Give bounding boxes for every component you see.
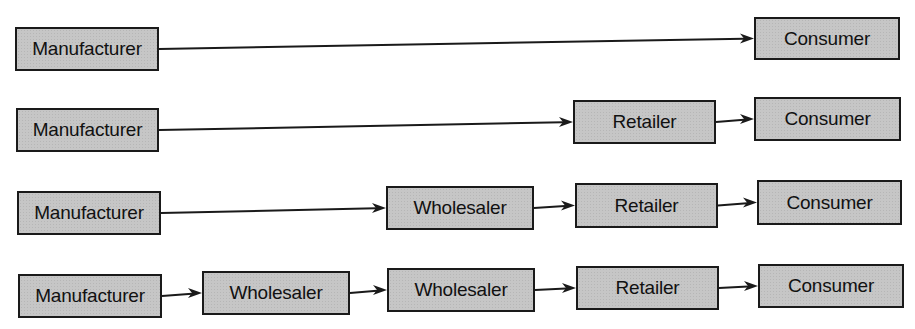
arrow-line	[161, 208, 376, 213]
node-retailer: Retailer	[575, 183, 718, 228]
node-consumer: Consumer	[757, 180, 902, 225]
node-wholesaler: Wholesaler	[386, 186, 534, 230]
node-label: Manufacturer	[35, 285, 145, 307]
node-retailer: Retailer	[576, 266, 719, 310]
node-consumer: Consumer	[754, 97, 901, 141]
node-manufacturer: Manufacturer	[16, 108, 159, 152]
arrow-line	[535, 288, 566, 290]
node-wholesaler: Wholesaler	[387, 268, 535, 312]
node-label: Retailer	[616, 277, 680, 299]
arrow-line	[159, 122, 563, 130]
distribution-channel-diagram: Manufacturer Consumer Manufacturer Retai…	[0, 0, 915, 329]
node-manufacturer: Manufacturer	[17, 191, 161, 235]
arrow-line	[159, 39, 744, 49]
node-manufacturer: Manufacturer	[15, 27, 159, 71]
node-label: Manufacturer	[34, 202, 144, 224]
node-consumer: Consumer	[754, 17, 900, 60]
node-label: Manufacturer	[32, 38, 142, 60]
node-label: Consumer	[784, 28, 870, 50]
node-manufacturer: Manufacturer	[18, 274, 162, 318]
node-label: Manufacturer	[33, 119, 143, 141]
arrow-line	[534, 206, 565, 208]
node-label: Wholesaler	[414, 279, 507, 301]
arrow-line	[350, 291, 377, 293]
arrow-line	[719, 287, 748, 288]
node-wholesaler: Wholesaler	[202, 271, 350, 315]
node-label: Retailer	[615, 195, 679, 217]
arrow-line	[162, 294, 192, 296]
node-label: Consumer	[786, 192, 872, 214]
node-label: Wholesaler	[229, 282, 322, 304]
arrow-line	[716, 120, 744, 122]
node-label: Retailer	[613, 111, 677, 133]
node-label: Consumer	[784, 108, 870, 130]
node-retailer: Retailer	[573, 100, 716, 144]
node-consumer: Consumer	[758, 264, 904, 308]
node-label: Wholesaler	[413, 197, 506, 219]
node-label: Consumer	[788, 275, 874, 297]
arrow-line	[718, 203, 747, 205]
